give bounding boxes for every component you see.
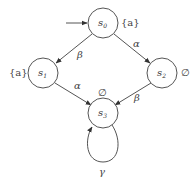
edge-label-s3-s3: γ [99,166,105,177]
transition-s3-s3-self-loop: γ [87,125,118,177]
state-label-s3: ∅ [98,87,107,98]
state-s0: s0 {a} [88,8,140,38]
state-subscript: 0 [103,22,107,29]
state-subscript: 2 [161,72,166,79]
state-s2: s2 ∅ [147,58,190,88]
edge-label-s1-s3: α [74,80,81,91]
state-subscript: 3 [103,112,107,119]
state-label-s0: {a} [121,17,140,28]
transition-s0-s1: β [56,34,92,63]
transition-s0-s2: α [114,34,150,63]
edge-label-s0-s2: α [133,38,140,49]
state-label-s1: {a} [9,67,28,78]
state-s3: s3 ∅ [88,87,118,128]
transition-s1-s3: α [55,80,91,105]
state-label-s2: ∅ [181,67,190,78]
edge-label-s0-s1: β [76,49,83,60]
state-subscript: 1 [43,72,47,79]
edge-label-s2-s3: β [133,92,140,103]
transition-s2-s3: β [115,83,151,105]
state-s1: s1 {a} [9,58,58,88]
transition-system-diagram: β α α β γ s0 {a} s1 {a} s2 ∅ [0,0,194,181]
